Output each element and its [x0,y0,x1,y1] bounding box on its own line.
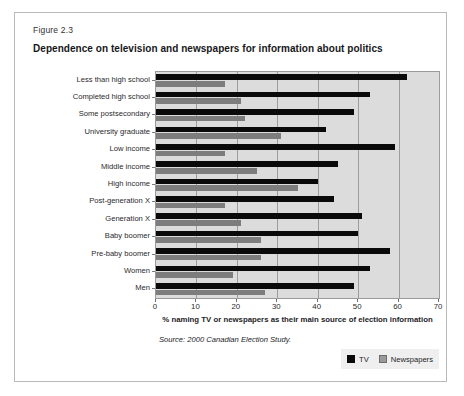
legend-swatch-icon [379,355,387,363]
legend-item: Newspapers [379,355,433,364]
bar-newspapers [156,116,245,122]
figure-title: Dependence on television and newspapers … [33,43,383,54]
x-axis-tick-label: 30 [272,302,281,311]
bar-group [156,246,439,264]
y-axis-label: University graduate [31,127,150,136]
chart-area: Less than high schoolCompleted high scho… [31,59,431,371]
bar-group [156,281,439,299]
bar-rows [156,72,439,298]
legend-swatch-icon [347,355,355,363]
bar-group [156,159,439,177]
x-axis-tick-label: 70 [434,302,443,311]
legend-label: Newspapers [391,355,433,364]
bar-tv [156,231,358,237]
bar-newspapers [156,290,265,296]
bar-newspapers [156,185,298,191]
y-axis-label: Women [31,266,150,275]
bar-newspapers [156,255,261,261]
y-axis-label: Pre-baby boomer [31,249,150,258]
bar-group [156,89,439,107]
y-axis-label: Generation X [31,214,150,223]
bar-tv [156,283,354,289]
bar-group [156,142,439,160]
bar-tv [156,109,354,115]
bar-tv [156,161,338,167]
bar-newspapers [156,203,225,209]
bar-tv [156,196,334,202]
x-axis-tick-label: 10 [191,302,200,311]
bar-tv [156,74,407,80]
bar-tv [156,127,326,133]
y-axis-label: Less than high school [31,75,150,84]
bar-newspapers [156,98,241,104]
x-axis-tick-label: 0 [153,302,157,311]
bar-tv [156,92,370,98]
bar-newspapers [156,133,281,139]
figure-number: Figure 2.3 [33,25,73,35]
x-axis-tick-label: 50 [353,302,362,311]
y-axis-label: High income [31,179,150,188]
chart-legend: TVNewspapers [341,349,439,369]
bar-group [156,194,439,212]
bar-group [156,263,439,281]
x-axis-tick-label: 40 [312,302,321,311]
y-axis-label: Middle income [31,162,150,171]
figure-frame: Figure 2.3 Dependence on television and … [14,12,447,382]
bar-group [156,228,439,246]
x-axis-tick-label: 20 [232,302,241,311]
y-axis-label: Some postsecondary [31,109,150,118]
legend-item: TV [347,355,369,364]
bar-group [156,72,439,90]
bar-newspapers [156,237,261,243]
source-note: Source: 2000 Canadian Election Study. [159,335,291,344]
figure-page: Figure 2.3 Dependence on television and … [0,0,464,396]
bar-tv [156,213,362,219]
bar-tv [156,144,395,150]
y-axis-label: Baby boomer [31,231,150,240]
bar-group [156,107,439,125]
bar-group [156,176,439,194]
y-axis-label: Completed high school [31,92,150,101]
x-axis-ticks: 010203040506070 [155,299,440,313]
bar-group [156,211,439,229]
gridline-70 [439,72,440,298]
bar-group [156,124,439,142]
y-axis-label: Post-generation X [31,196,150,205]
bar-tv [156,248,390,254]
bar-tv [156,266,370,272]
y-axis-label: Low income [31,144,150,153]
x-axis-tick-label: 60 [393,302,402,311]
x-axis-label: % naming TV or newspapers as their main … [155,315,440,324]
y-axis-label: Men [31,283,150,292]
bar-newspapers [156,168,257,174]
y-axis-category-labels: Less than high schoolCompleted high scho… [31,71,150,299]
bar-newspapers [156,151,225,157]
legend-label: TV [359,355,369,364]
bar-newspapers [156,81,225,87]
bar-tv [156,179,318,185]
plot-area [155,71,440,299]
bar-newspapers [156,272,233,278]
bar-newspapers [156,220,241,226]
